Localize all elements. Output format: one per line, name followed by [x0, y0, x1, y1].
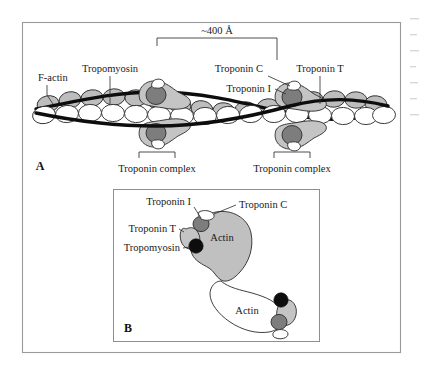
tropomyosin-label: Tropomyosin — [82, 63, 139, 74]
tropomyosin-dot-lower — [274, 293, 288, 307]
troponin-complex-left-label: Troponin complex — [118, 163, 196, 174]
actin-lower-label: Actin — [235, 305, 259, 316]
troponin-cluster-lower — [271, 293, 296, 339]
figure-outer-frame — [23, 23, 401, 353]
f-actin-label: F-actin — [38, 72, 68, 83]
tropomyosin-label-b: Tropomyosin — [124, 242, 181, 253]
troponin-i-label-b: Troponin I — [146, 196, 191, 207]
scale-label: ~400 Å — [201, 25, 233, 36]
actin-upper-label: Actin — [210, 232, 234, 243]
thin-filament-figure: ~400 Å — [0, 0, 423, 370]
troponin-c-label: Troponin C — [215, 63, 263, 74]
troponin-c-label-b: Troponin C — [239, 199, 287, 210]
scale-bracket — [157, 38, 277, 60]
troponin-complex-left-bracket — [139, 152, 175, 158]
troponin-i-label: Troponin I — [226, 83, 271, 94]
troponin-complex-right-label: Troponin complex — [253, 163, 331, 174]
panel-b-label: B — [124, 321, 132, 335]
page-bleed-marks — [410, 18, 419, 115]
tropomyosin-dot-upper — [189, 239, 203, 253]
figure-root: ~400 Å — [0, 0, 423, 370]
panel-a: ~400 Å — [31, 25, 396, 174]
troponin-c-leader-line — [268, 76, 290, 86]
troponin-t-label-b: Troponin T — [128, 223, 176, 234]
troponin-t-label: Troponin T — [296, 63, 344, 74]
panel-a-label: A — [36, 159, 45, 173]
troponin-complex-right-bracket — [274, 152, 310, 158]
panel-b: Actin Actin Troponin I — [114, 190, 320, 342]
